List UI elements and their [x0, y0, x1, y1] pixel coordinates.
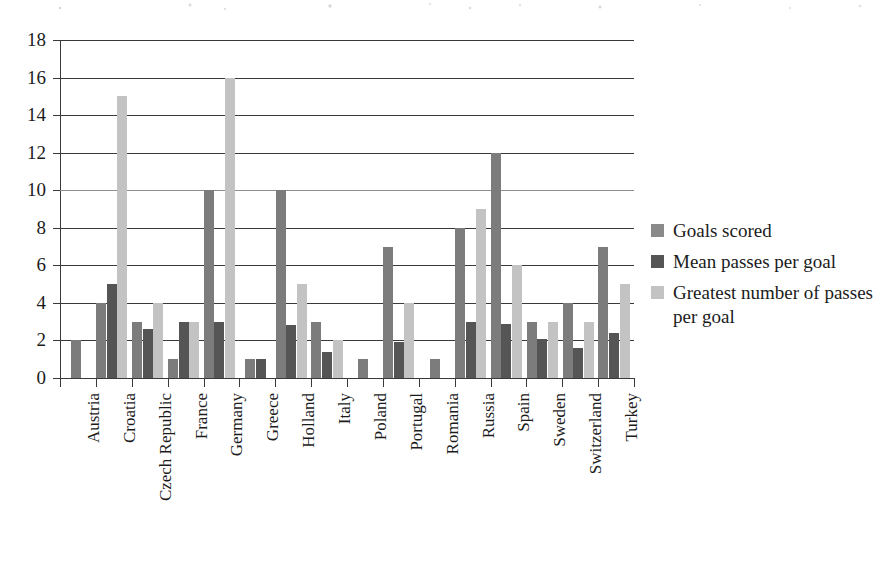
chart-legend: Goals scoredMean passes per goalGreatest… — [651, 219, 876, 336]
bar-turkey-series-0 — [598, 247, 608, 378]
legend-swatch-icon — [651, 224, 664, 237]
plot-area — [60, 40, 634, 378]
y-axis-label: 2 — [4, 330, 46, 349]
x-tick-1 — [96, 378, 97, 387]
x-tick-14 — [562, 378, 563, 387]
x-tick-6 — [275, 378, 276, 387]
gridline-6 — [60, 265, 634, 266]
bar-russia-series-1 — [466, 322, 476, 378]
bar-croatia-series-0 — [96, 303, 106, 378]
legend-swatch-icon — [651, 255, 664, 268]
bar-croatia-series-2 — [117, 96, 127, 378]
bar-russia-series-2 — [476, 209, 486, 378]
y-axis-label: 4 — [4, 293, 46, 312]
x-tick-4 — [204, 378, 205, 387]
bar-italy-series-0 — [311, 322, 321, 378]
bar-france-series-1 — [179, 322, 189, 378]
x-tick-5 — [239, 378, 240, 387]
bar-greece-series-0 — [245, 359, 255, 378]
legend-swatch-icon — [651, 286, 664, 299]
y-axis-label: 16 — [4, 68, 46, 87]
y-axis-label: 6 — [4, 255, 46, 274]
bar-czech-republic-series-2 — [153, 303, 163, 378]
x-axis-label-sweden: Sweden — [551, 393, 568, 447]
bar-italy-series-1 — [322, 352, 332, 378]
bar-russia-series-0 — [455, 228, 465, 378]
x-tick-7 — [311, 378, 312, 387]
bar-austria-series-0 — [71, 340, 81, 378]
legend-item-0: Goals scored — [651, 219, 876, 243]
x-tick-11 — [455, 378, 456, 387]
gridline-4 — [60, 303, 634, 304]
scan-noise-artifact — [0, 0, 884, 22]
x-axis-label-turkey: Turkey — [623, 393, 640, 442]
bar-portugal-series-1 — [394, 342, 404, 378]
x-tick-16 — [634, 378, 635, 387]
bar-czech-republic-series-0 — [132, 322, 142, 378]
bar-germany-series-0 — [204, 190, 214, 378]
bar-romania-series-0 — [430, 359, 440, 378]
bar-germany-series-1 — [214, 322, 224, 378]
x-axis-label-germany: Germany — [228, 393, 245, 456]
y-axis-label: 8 — [4, 218, 46, 237]
bar-spain-series-2 — [512, 265, 522, 378]
x-tick-0 — [60, 378, 61, 387]
y-axis-label: 0 — [4, 368, 46, 387]
x-axis-label-portugal: Portugal — [408, 393, 425, 451]
bar-germany-series-2 — [225, 78, 235, 378]
x-axis-label-croatia: Croatia — [121, 393, 138, 443]
x-axis-label-holland: Holland — [300, 393, 317, 448]
x-tick-15 — [598, 378, 599, 387]
legend-label: Mean passes per goal — [673, 250, 836, 274]
x-tick-9 — [383, 378, 384, 387]
bar-sweden-series-2 — [548, 322, 558, 378]
bar-holland-series-2 — [297, 284, 307, 378]
x-tick-2 — [132, 378, 133, 387]
bar-czech-republic-series-1 — [143, 329, 153, 378]
x-tick-3 — [168, 378, 169, 387]
gridline-14 — [60, 115, 634, 116]
x-axis-label-switzerland: Switzerland — [587, 393, 604, 474]
legend-item-1: Mean passes per goal — [651, 250, 876, 274]
bar-croatia-series-1 — [107, 284, 117, 378]
bar-france-series-2 — [189, 322, 199, 378]
x-axis-label-france: France — [193, 393, 210, 439]
x-axis-label-russia: Russia — [480, 393, 497, 438]
x-axis-label-poland: Poland — [372, 393, 389, 440]
x-axis-label-spain: Spain — [515, 393, 532, 432]
x-axis-label-greece: Greece — [264, 393, 281, 441]
legend-label: Goals scored — [673, 219, 772, 243]
x-tick-10 — [419, 378, 420, 387]
y-axis-label: 10 — [4, 180, 46, 199]
bar-sweden-series-1 — [537, 339, 547, 378]
x-tick-13 — [526, 378, 527, 387]
gridline-12 — [60, 153, 634, 154]
bar-poland-series-0 — [358, 359, 368, 378]
bar-sweden-series-0 — [527, 322, 537, 378]
bar-spain-series-1 — [501, 324, 511, 378]
x-axis-label-czech-republic: Czech Republic — [157, 393, 174, 501]
bar-chart: 024681012141618 AustriaCroatiaCzech Repu… — [0, 0, 884, 561]
bar-switzerland-series-0 — [563, 303, 573, 378]
x-tick-12 — [491, 378, 492, 387]
bar-portugal-series-0 — [383, 247, 393, 378]
y-axis-label: 18 — [4, 30, 46, 49]
bar-portugal-series-2 — [404, 303, 414, 378]
bar-switzerland-series-1 — [573, 348, 583, 378]
legend-label: Greatest number of passes per goal — [673, 281, 876, 329]
y-axis-label: 12 — [4, 143, 46, 162]
gridline-16 — [60, 78, 634, 79]
bar-holland-series-1 — [286, 325, 296, 378]
gridline-18 — [60, 40, 634, 41]
bar-holland-series-0 — [276, 190, 286, 378]
bar-greece-series-1 — [256, 359, 266, 378]
bar-switzerland-series-2 — [584, 322, 594, 378]
bar-france-series-0 — [168, 359, 178, 378]
gridline-10 — [60, 190, 634, 191]
bar-turkey-series-2 — [620, 284, 630, 378]
y-axis-label: 14 — [4, 105, 46, 124]
x-axis-label-italy: Italy — [336, 393, 353, 424]
gridline-8 — [60, 228, 634, 229]
bar-italy-series-2 — [333, 340, 343, 378]
x-axis-label-romania: Romania — [444, 393, 461, 454]
